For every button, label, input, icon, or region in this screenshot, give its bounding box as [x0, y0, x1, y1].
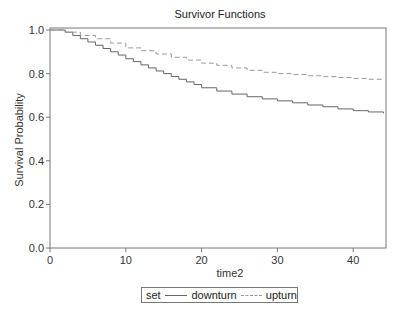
y-tick-label: 0.8	[29, 68, 44, 80]
x-tick-label: 20	[195, 254, 207, 266]
x-tick-label: 30	[271, 254, 283, 266]
y-tick-label: 0.2	[29, 198, 44, 210]
y-tick-label: 0.6	[29, 111, 44, 123]
x-tick-label: 10	[120, 254, 132, 266]
legend-label-downturn: downturn	[191, 289, 236, 301]
legend-swatch-dashed	[241, 295, 262, 296]
x-axis: 010203040	[47, 248, 359, 266]
y-tick-label: 1.0	[29, 24, 44, 36]
plot-frame	[50, 28, 386, 248]
x-tick-label: 0	[47, 254, 53, 266]
y-axis-label: Survival Probability	[13, 85, 25, 195]
legend-swatch-solid	[165, 295, 188, 296]
legend-title: set	[146, 289, 161, 301]
legend-label-upturn: upturn	[266, 289, 297, 301]
x-axis-label: time2	[190, 267, 270, 279]
legend: set downturn upturn	[141, 287, 298, 303]
y-tick-label: 0.4	[29, 155, 44, 167]
x-tick-label: 40	[347, 254, 359, 266]
y-axis: 0.00.20.40.60.81.0	[29, 24, 50, 254]
y-tick-label: 0.0	[29, 242, 44, 254]
chart-title: Survivor Functions	[0, 8, 400, 20]
